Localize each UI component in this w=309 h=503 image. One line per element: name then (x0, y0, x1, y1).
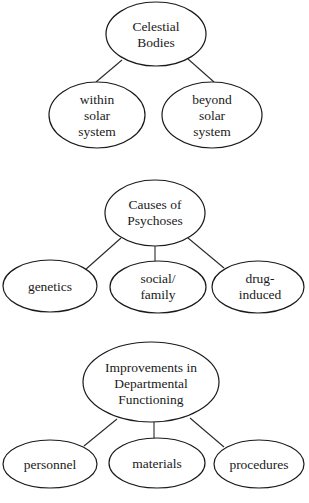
node-label: social/ (140, 271, 175, 286)
node-label: Causes of (129, 197, 182, 212)
node-label: Departmental (114, 376, 188, 391)
node-label: beyond (192, 92, 232, 107)
root-node: Causes of Psychoses (105, 180, 205, 246)
edge-root-to-beyond (188, 59, 214, 82)
edge-root-to-genetics (85, 238, 121, 270)
child-node-procedures: procedures (214, 440, 304, 488)
root-node: Celestial Bodies (106, 2, 206, 66)
node-label: Psychoses (127, 213, 183, 228)
child-node-genetics: genetics (3, 260, 97, 312)
child-node-social-family: social/ family (110, 261, 206, 313)
node-label: system (78, 124, 116, 139)
node-label: family (140, 287, 175, 302)
concept-maps-canvas: Celestial Bodies within solar system bey… (0, 0, 309, 503)
node-label: Bodies (137, 35, 175, 50)
node-label: drug- (245, 271, 275, 286)
concept-map-causes-of-psychoses: Causes of Psychoses genetics social/ fam… (3, 180, 304, 313)
node-label: Functioning (118, 392, 184, 407)
node-label: solar (199, 108, 226, 123)
concept-map-departmental-functioning: Improvements in Departmental Functioning… (3, 342, 304, 488)
child-node-within-solar-system: within solar system (49, 82, 145, 148)
node-label: genetics (28, 279, 72, 294)
node-label: procedures (229, 457, 288, 472)
node-label: personnel (24, 457, 77, 472)
root-node: Improvements in Departmental Functioning (83, 342, 219, 422)
node-label: solar (84, 108, 111, 123)
child-node-beyond-solar-system: beyond solar system (162, 82, 262, 148)
node-label: induced (239, 287, 282, 302)
edge-root-to-personnel (84, 419, 117, 446)
concept-map-celestial-bodies: Celestial Bodies within solar system bey… (49, 2, 262, 148)
node-label: Celestial (132, 19, 179, 34)
child-node-drug-induced: drug- induced (212, 261, 304, 313)
child-node-personnel: personnel (3, 440, 97, 488)
node-label: within (80, 92, 115, 107)
node-label: Improvements in (105, 360, 197, 375)
edge-root-to-drug-induced (188, 238, 224, 268)
edge-root-to-procedures (190, 418, 224, 447)
child-node-materials: materials (109, 438, 205, 488)
node-label: materials (132, 456, 181, 471)
node-label: system (193, 124, 231, 139)
edge-root-to-within (96, 60, 122, 82)
